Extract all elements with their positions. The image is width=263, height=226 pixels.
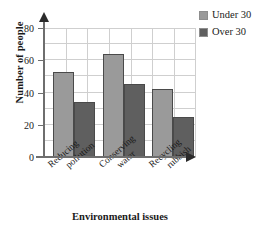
y-axis-line — [43, 20, 45, 158]
y-tick-label-80: 80 — [12, 24, 34, 34]
legend-swatch-icon-under-30 — [199, 11, 208, 20]
y-axis-tick-labels: 80 60 40 20 0 — [12, 0, 34, 226]
y-tick-label-40: 40 — [12, 89, 34, 99]
legend-label-over-30: Over 30 — [212, 27, 246, 38]
legend-item-over-30: Over 30 — [199, 25, 263, 39]
legend: Under 30 Over 30 — [199, 8, 263, 42]
x-axis-arrow-icon — [186, 152, 196, 162]
y-tick-label-60: 60 — [12, 56, 34, 66]
y-tick-label-0: 0 — [12, 153, 34, 163]
legend-item-under-30: Under 30 — [199, 8, 263, 22]
legend-label-under-30: Under 30 — [212, 10, 251, 21]
x-axis-title: Environmental issues — [44, 211, 196, 222]
x-axis-line — [36, 156, 188, 158]
legend-swatch-icon-over-30 — [199, 28, 208, 37]
bar-chart: Number of people 80 60 40 20 0 Reducing — [0, 0, 263, 226]
y-tick-label-20: 20 — [12, 121, 34, 131]
y-axis-arrow-icon — [39, 12, 49, 22]
